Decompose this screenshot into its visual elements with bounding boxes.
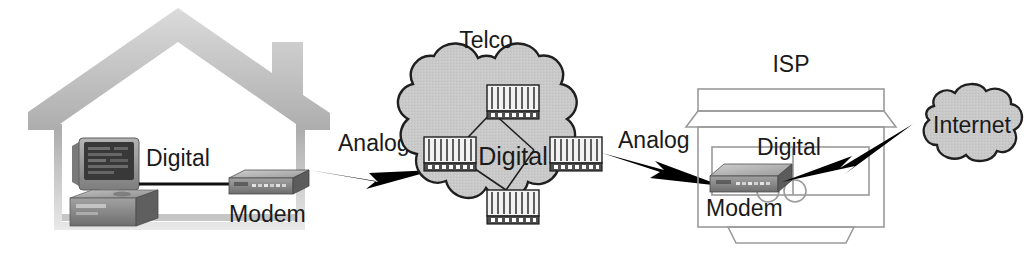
- analog-right-bolt: [602, 153, 722, 186]
- telco-label: Telco: [459, 27, 513, 53]
- internet-label: Internet: [933, 112, 1012, 138]
- home-modem-label: Modem: [229, 201, 306, 227]
- isp-modem: [710, 164, 792, 192]
- telco-switch-right: [550, 137, 602, 171]
- telco-switch-bottom: [487, 190, 539, 224]
- computer-drive-slot-2: [76, 212, 98, 215]
- telco-cloud-shape: [398, 43, 577, 198]
- network-diagram: Digital Modem Analog Telco: [0, 0, 1033, 268]
- isp-modem-label: Modem: [706, 195, 783, 221]
- telco-digital-label: Digital: [478, 142, 547, 170]
- monitor-side: [72, 142, 79, 186]
- analog-left-label: Analog: [338, 130, 410, 156]
- telco-switch-left: [424, 137, 476, 171]
- telco-switch-top: [487, 85, 539, 119]
- home-modem: [229, 170, 309, 194]
- diagram-canvas: Digital Modem Analog Telco: [0, 0, 1033, 268]
- isp-roof-cap: [698, 89, 884, 111]
- isp-label: ISP: [772, 51, 809, 77]
- isp-modem-vent: [716, 180, 731, 184]
- home-modem-vent: [234, 182, 248, 186]
- analog-right-label: Analog: [618, 127, 690, 153]
- home-digital-label: Digital: [146, 145, 210, 171]
- analog-left-bolt: [309, 170, 435, 189]
- isp-eaves: [686, 111, 896, 127]
- computer-case-accent: [113, 192, 131, 197]
- isp-base: [728, 227, 854, 243]
- isp-digital-label: Digital: [757, 134, 821, 160]
- home-computer: [70, 138, 158, 226]
- telco-cloud: [398, 43, 577, 198]
- computer-drive-slot: [76, 204, 106, 208]
